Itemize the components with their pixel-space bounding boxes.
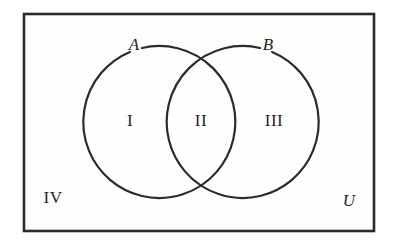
- region-label-iii: III: [265, 111, 283, 130]
- venn-diagram-canvas: A B I II III IV U: [0, 0, 396, 245]
- set-a-label: A: [128, 35, 140, 54]
- region-label-iv: IV: [44, 188, 63, 207]
- universe-label: U: [343, 191, 357, 210]
- set-b-label: B: [263, 35, 274, 54]
- region-label-i: I: [127, 111, 133, 130]
- region-label-ii: II: [195, 111, 207, 130]
- venn-diagram-figure: A B I II III IV U: [0, 0, 396, 245]
